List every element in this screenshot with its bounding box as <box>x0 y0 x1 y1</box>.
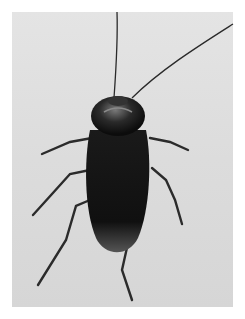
cockroach-illustration <box>0 0 245 319</box>
antennae <box>114 12 233 98</box>
body <box>86 130 149 252</box>
